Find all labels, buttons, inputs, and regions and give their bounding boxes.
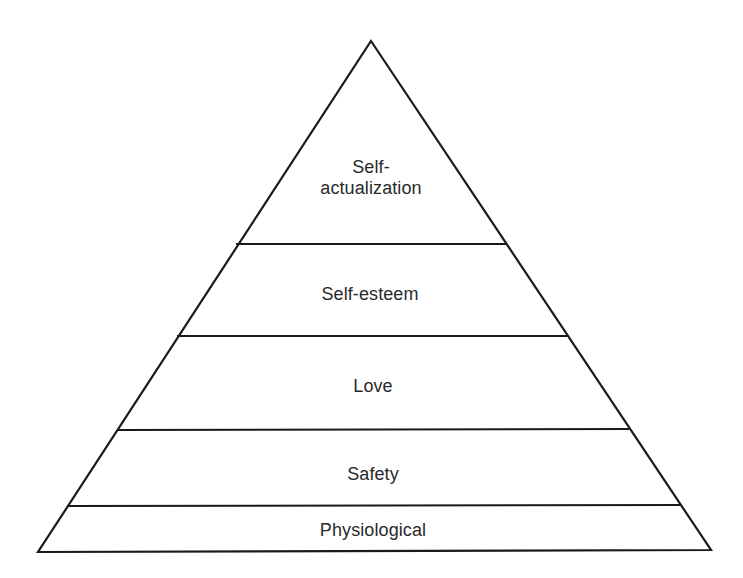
level-self-esteem: Self-esteem [321, 284, 418, 305]
level-safety: Safety [347, 464, 399, 485]
level-physiological: Physiological [320, 520, 426, 541]
divider-love-safety [117, 429, 629, 430]
divider-safety-physiological [67, 505, 681, 506]
level-self-actualization: Self- actualization [320, 157, 421, 199]
level-self-actualization-line1: Self- [320, 157, 421, 178]
level-self-actualization-line2: actualization [320, 178, 421, 199]
level-love: Love [353, 376, 392, 397]
